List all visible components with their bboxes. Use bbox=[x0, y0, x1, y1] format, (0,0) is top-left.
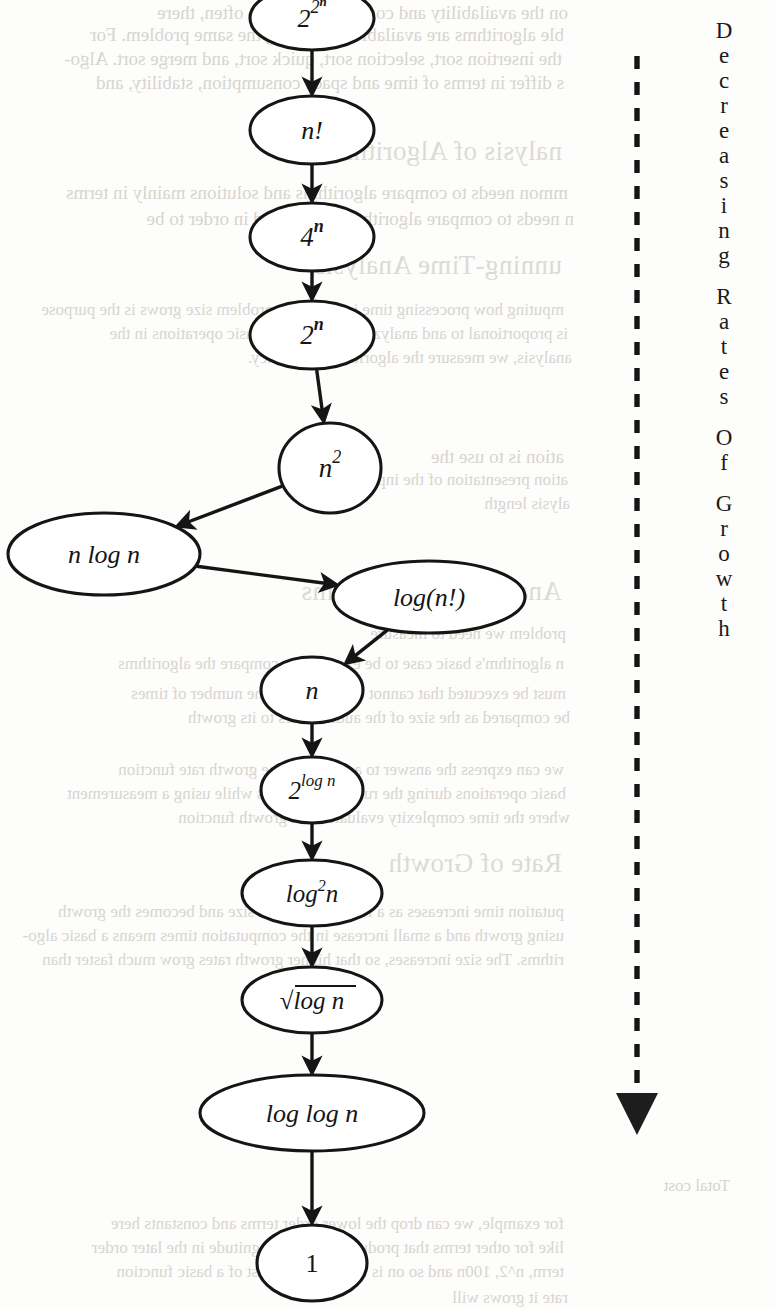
axis-caption-word: Growth bbox=[698, 491, 750, 641]
decreasing-rates-axis-arrow bbox=[616, 56, 658, 1135]
axis-caption-char: D bbox=[698, 18, 750, 43]
flowchart-edge bbox=[178, 486, 283, 526]
axis-caption-char: n bbox=[698, 218, 750, 243]
axis-caption-char: G bbox=[698, 491, 750, 516]
flowchart-node: 4n bbox=[250, 203, 374, 271]
flowchart-node-group: 22nn!4n2nn2n log nlog(n!)n2log nlog2n√lo… bbox=[8, 0, 525, 1301]
axis-caption-char: R bbox=[698, 284, 750, 309]
node-label: log2n bbox=[286, 877, 338, 907]
axis-caption-char: i bbox=[698, 193, 750, 218]
flowchart-node: n2 bbox=[279, 423, 381, 513]
node-label: √log n bbox=[280, 987, 344, 1014]
axis-caption-char: a bbox=[698, 143, 750, 168]
axis-caption-char: r bbox=[698, 93, 750, 118]
flowchart-node: n log n bbox=[8, 513, 200, 595]
axis-caption-char: s bbox=[698, 384, 750, 409]
axis-caption-char: t bbox=[698, 334, 750, 359]
axis-caption-char: s bbox=[698, 168, 750, 193]
axis-caption-word: Rates bbox=[698, 284, 750, 409]
axis-caption-char: o bbox=[698, 541, 750, 566]
flowchart-node: n! bbox=[250, 96, 374, 164]
axis-caption-char: e bbox=[698, 43, 750, 68]
flowchart-node: 1 bbox=[257, 1225, 367, 1301]
flowchart-svg: 22nn!4n2nn2n log nlog(n!)n2log nlog2n√lo… bbox=[0, 0, 776, 1309]
axis-arrowhead-icon bbox=[616, 1093, 658, 1135]
node-label: 1 bbox=[306, 1249, 319, 1278]
axis-caption-word: Decreasing bbox=[698, 18, 750, 268]
axis-caption-char: w bbox=[698, 566, 750, 591]
node-label: n bbox=[306, 676, 319, 705]
flowchart-edge bbox=[317, 370, 324, 421]
flowchart-node: 2n bbox=[250, 301, 374, 369]
flowchart-edge bbox=[197, 566, 337, 585]
axis-caption-char: c bbox=[698, 68, 750, 93]
axis-caption-char: O bbox=[698, 425, 750, 450]
scanned-book-page: on the availability and convenience. Mor… bbox=[0, 0, 776, 1309]
node-label: log log n bbox=[266, 1099, 358, 1128]
flowchart-node: 2log n bbox=[261, 757, 363, 823]
flowchart-node: log(n!) bbox=[333, 561, 525, 633]
axis-caption-char: h bbox=[698, 616, 750, 641]
axis-caption-word: Of bbox=[698, 425, 750, 475]
axis-caption-char: f bbox=[698, 450, 750, 475]
node-label: log(n!) bbox=[393, 583, 465, 612]
axis-caption-char: g bbox=[698, 243, 750, 268]
axis-caption-char: t bbox=[698, 591, 750, 616]
node-label: n log n bbox=[68, 540, 140, 569]
axis-caption-char: a bbox=[698, 309, 750, 334]
node-ellipse bbox=[261, 757, 363, 823]
flowchart-node: √log n bbox=[242, 967, 382, 1033]
flowchart-node: log2n bbox=[242, 860, 382, 926]
flowchart-node: n bbox=[261, 657, 363, 723]
growth-rate-flowchart: 22nn!4n2nn2n log nlog(n!)n2log nlog2n√lo… bbox=[0, 0, 776, 1309]
axis-caption: DecreasingRatesOfGrowth bbox=[698, 18, 750, 657]
axis-caption-char: e bbox=[698, 359, 750, 384]
axis-caption-char: e bbox=[698, 118, 750, 143]
flowchart-node: log log n bbox=[200, 1075, 424, 1151]
node-label: n! bbox=[301, 116, 323, 145]
flowchart-node: 22n bbox=[250, 0, 374, 50]
axis-caption-char: r bbox=[698, 516, 750, 541]
flowchart-edge bbox=[346, 630, 388, 663]
